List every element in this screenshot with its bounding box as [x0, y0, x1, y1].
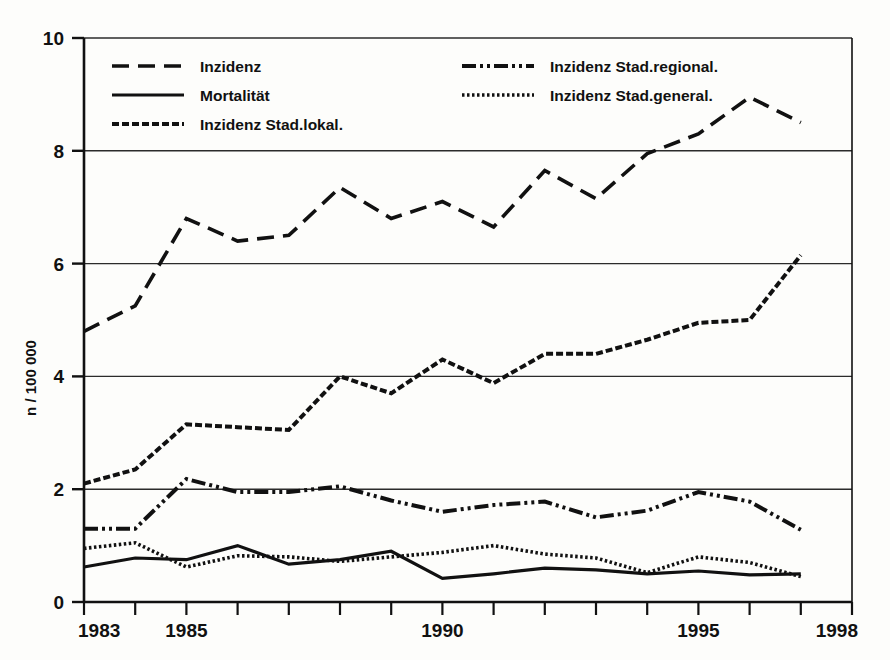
chart-page: 19831985199019951998 0246810 n / 100 000…: [0, 0, 890, 660]
legend-label-inzidenz-stad-regional: Inzidenz Stad.regional.: [550, 58, 718, 75]
y-tick-label-2: 2: [53, 479, 64, 500]
y-tick-label-8: 8: [53, 141, 64, 162]
y-axis-title: n / 100 000: [22, 340, 39, 416]
x-tick-label-1983: 1983: [78, 620, 120, 641]
y-tick-label-6: 6: [53, 254, 64, 275]
legend-label-mortalit-t: Mortalität: [200, 87, 270, 104]
legend-label-inzidenz: Inzidenz: [200, 58, 261, 75]
incidence-mortality-line-chart: 19831985199019951998 0246810 n / 100 000…: [0, 0, 890, 660]
x-tick-label-1990: 1990: [421, 620, 463, 641]
x-tick-label-1985: 1985: [165, 620, 208, 641]
y-tick-label-10: 10: [43, 28, 64, 49]
legend-label-inzidenz-stad-lokal: Inzidenz Stad.lokal.: [200, 116, 343, 133]
y-tick-label-4: 4: [53, 366, 64, 387]
legend-label-inzidenz-stad-general: Inzidenz Stad.general.: [550, 87, 713, 104]
y-tick-label-0: 0: [53, 592, 64, 613]
x-tick-label-1995: 1995: [677, 620, 720, 641]
x-tick-label-1998: 1998: [816, 620, 858, 641]
